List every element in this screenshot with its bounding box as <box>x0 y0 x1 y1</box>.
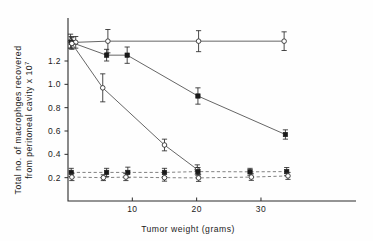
series-line <box>71 172 286 173</box>
y-tick-label: 1.2 <box>48 56 61 66</box>
data-marker-filled-square <box>283 132 287 136</box>
x-axis-ticks: 102030 <box>127 198 266 215</box>
data-marker-open-circle <box>282 39 287 44</box>
data-marker-open-circle <box>286 174 291 179</box>
data-marker-filled-square <box>104 53 108 57</box>
data-marker-filled-square <box>196 169 200 173</box>
x-axis-title-group: Tumor weight (grams) <box>141 224 235 234</box>
figure-container: 0.20.40.60.81.01.2 102030 Tumor weight (… <box>0 0 373 241</box>
x-axis-title: Tumor weight (grams) <box>141 224 235 234</box>
data-marker-open-circle <box>124 175 129 180</box>
y-axis-title-exponent: 7 <box>24 61 30 65</box>
y-tick-label: 0.4 <box>48 149 61 159</box>
series-control-flat-top <box>68 30 287 53</box>
data-marker-open-circle <box>106 39 111 44</box>
data-marker-open-circle <box>100 86 105 91</box>
series-steep-decline <box>69 38 200 175</box>
data-marker-open-circle <box>249 175 254 180</box>
series-baseline-lower-dashed <box>69 172 290 181</box>
chart-canvas: 0.20.40.60.81.01.2 102030 Tumor weight (… <box>0 0 373 241</box>
y-axis-title-group: Total no. of macrophges recovered from p… <box>13 46 34 195</box>
series-line <box>71 41 285 42</box>
axis-lines <box>68 18 356 201</box>
series-line <box>72 44 197 170</box>
y-axis-ticks: 0.20.40.60.81.01.2 <box>48 56 68 183</box>
x-tick-label: 30 <box>256 204 266 214</box>
data-marker-open-circle <box>162 175 167 180</box>
y-tick-label: 0.6 <box>48 126 61 136</box>
data-marker-filled-square <box>104 170 108 174</box>
data-marker-open-circle <box>196 176 201 181</box>
y-axis-title-line2: from peritoneal cavity x 107 <box>24 61 34 179</box>
data-marker-open-circle <box>196 39 201 44</box>
x-tick-label: 20 <box>192 204 202 214</box>
y-tick-label: 1.0 <box>48 79 61 89</box>
y-tick-label: 0.8 <box>48 103 61 113</box>
data-series-layer <box>68 30 291 182</box>
data-marker-open-circle <box>162 143 167 148</box>
plot-axes <box>68 18 356 201</box>
y-tick-label: 0.2 <box>48 173 61 183</box>
data-marker-filled-square <box>248 170 252 174</box>
x-tick-label: 10 <box>127 204 137 214</box>
y-axis-title-line1: Total no. of macrophges recovered <box>13 46 23 195</box>
data-marker-filled-square <box>196 94 200 98</box>
data-marker-open-circle <box>70 41 75 46</box>
data-marker-open-circle <box>101 175 106 180</box>
data-marker-open-circle <box>70 175 75 180</box>
data-marker-filled-square <box>125 53 129 57</box>
